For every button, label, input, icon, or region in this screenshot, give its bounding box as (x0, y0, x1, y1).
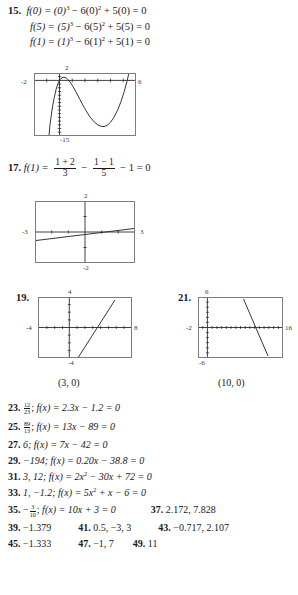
answer-43-number: 43. (158, 522, 171, 533)
answer-45-text: −1.333 (23, 538, 51, 549)
answer-23-text: f(x) = 2.3x − 1.2 = 0 (36, 402, 120, 413)
answer-29-text: −194; f(x) = 0.20x − 38.8 = 0 (23, 455, 144, 466)
answer-39-number: 39. (8, 522, 21, 533)
graph-21-plot (0, 0, 298, 380)
answer-23-number: 23. (8, 402, 21, 413)
answer-31-number: 31. (8, 471, 21, 482)
answer-25-text: f(x) = 13x − 89 = 0 (36, 421, 115, 432)
answer-29-number: 29. (8, 455, 21, 466)
answer-41-text: 0.5, −3, 3 (93, 522, 131, 533)
answer-49-text: 11 (148, 538, 158, 549)
fraction-denominator: 10 (30, 512, 36, 518)
answer-35-text: f(x) = 10x + 3 = 0 (42, 504, 116, 515)
answer-23-fraction: 12 23 (24, 402, 30, 416)
answer-41-number: 41. (78, 522, 91, 533)
answer-43-text: −0.717, 2.107 (173, 522, 229, 533)
answer-row-31: 31. 3, 12; f(x) = 2x2 − 30x + 72 = 0 (8, 472, 292, 483)
answer-31-post: − 30x + 72 = 0 (87, 471, 152, 482)
answer-47-text: −1, 7 (93, 538, 114, 549)
answer-47-number: 47. (78, 538, 91, 549)
answer-row-39-41-43: 39. −1.379 41. 0.5, −3, 3 43. −0.717, 2.… (8, 523, 292, 534)
answer-35-number: 35. (8, 504, 21, 515)
answer-39-text: −1.379 (23, 522, 51, 533)
answer-row-27: 27. 6; f(x) = 7x − 42 = 0 (8, 440, 292, 451)
answer-37-text: 2.172, 7.828 (166, 504, 216, 515)
answer-35-minus: − (23, 504, 29, 515)
answers-list: 23. 12 23 ; f(x) = 2.3x − 1.2 = 0 25. 89… (8, 402, 292, 555)
answer-row-25: 25. 89 13 ; f(x) = 13x − 89 = 0 (8, 421, 292, 435)
answer-27-number: 27. (8, 439, 21, 450)
answer-33-post: + x − 6 = 0 (96, 487, 146, 498)
answer-25-number: 25. (8, 421, 21, 432)
fraction-denominator: 13 (24, 428, 30, 434)
fraction-denominator: 23 (24, 409, 30, 415)
exercise-19-answer: (3, 0) (58, 377, 80, 388)
answer-27-text: 6; f(x) = 7x − 42 = 0 (23, 439, 107, 450)
answer-row-23: 23. 12 23 ; f(x) = 2.3x − 1.2 = 0 (8, 402, 292, 416)
answer-31-pre: 3, 12; f(x) = 2x (23, 471, 84, 482)
answer-37-number: 37. (151, 504, 164, 515)
answer-35-fraction: 3 10 (30, 504, 36, 518)
answer-page: 15. f(0) = (0)3 − 6(0)2 + 5(0) = 0 f(5) … (0, 0, 298, 595)
answer-49-number: 49. (133, 538, 146, 549)
answer-row-29: 29. −194; f(x) = 0.20x − 38.8 = 0 (8, 456, 292, 467)
answer-row-35-37: 35. − 3 10 ; f(x) = 10x + 3 = 0 37. 2.17… (8, 504, 292, 518)
answer-25-fraction: 89 13 (24, 421, 30, 435)
answer-row-45-47-49: 45. −1.333 47. −1, 7 49. 11 (8, 539, 292, 550)
answer-45-number: 45. (8, 538, 21, 549)
answer-row-33: 33. 1, −1.2; f(x) = 5x2 + x − 6 = 0 (8, 488, 292, 499)
exercise-21-answer: (10, 0) (218, 377, 245, 388)
answer-33-number: 33. (8, 487, 21, 498)
answer-33-pre: 1, −1.2; f(x) = 5x (23, 487, 93, 498)
